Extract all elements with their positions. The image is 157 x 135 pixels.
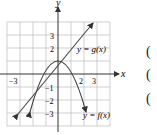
paren-1: ( — [146, 44, 151, 60]
tick-x-neg3: −3 — [9, 77, 18, 86]
x-axis-label: x — [120, 68, 126, 79]
function-graph: x y −3 2 3 3 2 −1 −2 −3 y = g(x) y = f(x… — [0, 0, 157, 135]
y-axis-label: y — [55, 0, 61, 8]
tick-x-2: 2 — [79, 77, 83, 86]
tick-y-neg1: −1 — [45, 84, 54, 93]
tick-x-3: 3 — [92, 77, 96, 86]
tick-y-neg3: −3 — [45, 110, 54, 119]
tick-y-3: 3 — [50, 32, 54, 41]
tick-y-neg2: −2 — [45, 97, 54, 106]
g-label: y = g(x) — [76, 44, 106, 54]
tick-y-2: 2 — [50, 45, 54, 54]
f-label: y = f(x) — [82, 110, 110, 120]
paren-2: ( — [146, 67, 151, 83]
paren-3: ( — [146, 91, 151, 107]
